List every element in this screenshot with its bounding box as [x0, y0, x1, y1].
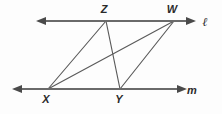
geometry-diagram-svg: Z W X Y ℓ m: [0, 0, 222, 114]
segment-YZ: [106, 21, 120, 89]
point-label-X: X: [41, 93, 50, 105]
segment-XZ: [48, 21, 106, 89]
segment-YW: [120, 21, 174, 89]
point-label-W: W: [167, 3, 179, 15]
line-l-left-arrowhead: [36, 17, 46, 25]
line-l-right-arrowhead: [186, 17, 196, 25]
line-label-l: ℓ: [202, 15, 207, 29]
segment-XW: [48, 21, 174, 89]
line-label-m: m: [187, 84, 197, 96]
geometry-figure: Z W X Y ℓ m: [0, 0, 222, 114]
line-m-left-arrowhead: [12, 85, 22, 93]
point-label-Y: Y: [115, 93, 124, 105]
point-label-Z: Z: [100, 3, 109, 15]
line-m-right-arrowhead: [177, 85, 187, 93]
